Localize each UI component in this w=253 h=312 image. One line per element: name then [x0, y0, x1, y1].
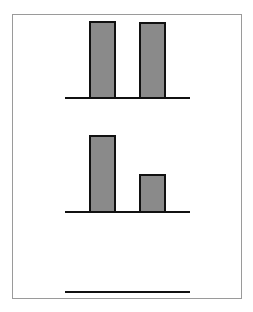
- chart-frame: [12, 14, 242, 299]
- chart-2-baseline: [65, 211, 190, 213]
- chart-3-baseline: [65, 291, 190, 293]
- chart-2-bar-1: [89, 135, 116, 211]
- chart-1-bar-1: [89, 21, 116, 97]
- chart-2-bar-2: [139, 174, 166, 211]
- chart-1-bar-2: [139, 22, 166, 97]
- chart-1-baseline: [65, 97, 190, 99]
